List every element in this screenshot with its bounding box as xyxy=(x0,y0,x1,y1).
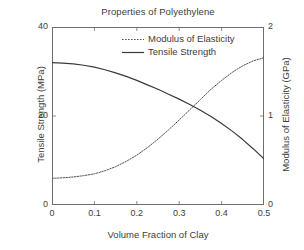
xtick-label: 0.4 xyxy=(207,208,237,218)
legend-line-solid-icon xyxy=(122,49,144,56)
legend-item-tensile-strength: Tensile Strength xyxy=(122,46,262,58)
xtick-label: 0.1 xyxy=(79,208,109,218)
legend-label: Modulus of Elasticity xyxy=(148,34,235,44)
series-line-modulus-of-elasticity xyxy=(52,58,264,179)
series-line-tensile-strength xyxy=(52,63,264,159)
xtick-label: 0 xyxy=(37,208,67,218)
legend-item-modulus-of-elasticity: Modulus of Elasticity xyxy=(122,33,262,45)
xtick-label: 0.3 xyxy=(164,208,194,218)
chart-title: Properties of Polyethylene xyxy=(52,6,264,17)
xtick-label: 0.5 xyxy=(249,208,279,218)
ytick-label-right: 1 xyxy=(268,110,273,120)
y-axis-label-right: Modulus of Elasticity (GPa) xyxy=(280,26,291,204)
data-series-group xyxy=(52,58,264,179)
legend-line-dotted-icon xyxy=(122,36,144,43)
x-axis-label: Volume Fraction of Clay xyxy=(52,229,264,240)
xtick-label: 0.2 xyxy=(122,208,152,218)
y-axis-label-left: Tensile Strength (MPa) xyxy=(35,26,46,204)
ytick-label-right: 2 xyxy=(268,21,273,31)
legend-label: Tensile Strength xyxy=(148,47,216,57)
chart-legend: Modulus of Elasticity Tensile Strength xyxy=(122,33,262,59)
chart-figure: Properties of Polyethylene 40 20 0 2 1 0… xyxy=(0,0,304,250)
